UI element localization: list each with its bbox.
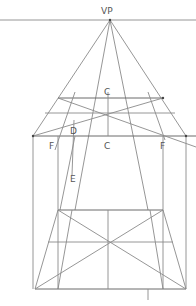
perspective-diagram: VP C C D E F F <box>0 0 196 306</box>
label-e: E <box>70 174 76 184</box>
upper-plane <box>33 92 196 210</box>
corner-point <box>162 97 164 99</box>
vp-point <box>109 19 111 21</box>
label-c-bottom: C <box>104 141 110 151</box>
label-d: D <box>70 126 77 136</box>
label-f-right: F <box>160 141 165 151</box>
corner-point <box>185 135 187 137</box>
corner-point <box>32 135 34 137</box>
label-vp: VP <box>101 6 113 16</box>
label-f-left: F <box>49 141 54 151</box>
vertical-edges <box>33 136 186 289</box>
label-c-top: C <box>104 87 110 97</box>
